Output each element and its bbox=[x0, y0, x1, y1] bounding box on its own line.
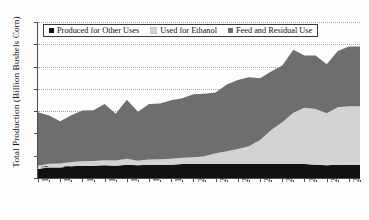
y-tick-mark bbox=[34, 111, 38, 112]
x-tick-label: 1988 bbox=[63, 166, 72, 182]
x-tick-label: 2008 bbox=[285, 166, 294, 182]
x-tick-label: 2014 bbox=[352, 166, 361, 182]
x-tick-mark bbox=[38, 178, 39, 182]
x-tick-mark bbox=[193, 178, 194, 182]
x-tick-mark bbox=[260, 178, 261, 182]
x-tick-label: 2004 bbox=[241, 166, 250, 182]
legend-item: Used for Ethanol bbox=[150, 26, 217, 35]
y-tick-mark bbox=[34, 156, 38, 157]
y-tick-mark bbox=[34, 22, 38, 23]
x-tick-mark bbox=[304, 178, 305, 182]
x-tick-label: 1996 bbox=[152, 166, 161, 182]
x-tick-label: 1986 bbox=[41, 166, 50, 182]
x-tick-label: 2000 bbox=[197, 166, 206, 182]
x-tick-mark bbox=[82, 178, 83, 182]
legend-swatch-icon bbox=[150, 27, 157, 34]
x-tick-mark bbox=[216, 178, 217, 182]
legend-swatch-icon bbox=[49, 28, 54, 33]
y-tick-mark bbox=[34, 44, 38, 45]
x-tick-label: 1994 bbox=[130, 166, 139, 182]
chart-figure: Total Production (Billion Bushels Corn) … bbox=[0, 0, 369, 220]
x-tick-label: 1998 bbox=[174, 166, 183, 182]
y-tick-mark bbox=[34, 67, 38, 68]
figure-caption bbox=[18, 213, 358, 220]
legend-label: Used for Ethanol bbox=[160, 26, 217, 35]
legend-label: Produced for Other Uses bbox=[57, 26, 139, 35]
legend-item: Produced for Other Uses bbox=[49, 26, 139, 35]
x-tick-label: 2002 bbox=[219, 166, 228, 182]
x-tick-mark bbox=[349, 178, 350, 182]
stacked-area-series bbox=[38, 22, 360, 178]
x-tick-mark bbox=[171, 178, 172, 182]
x-tick-label: 2006 bbox=[263, 166, 272, 182]
x-tick-mark bbox=[127, 178, 128, 182]
plot-area: 02468101214 1986198819901992199419961998… bbox=[38, 22, 360, 178]
x-tick-label: 2012 bbox=[330, 166, 339, 182]
x-tick-mark bbox=[327, 178, 328, 182]
x-tick-mark bbox=[105, 178, 106, 182]
x-tick-label: 1990 bbox=[86, 166, 95, 182]
chart-legend: Produced for Other UsesUsed for EthanolF… bbox=[43, 24, 318, 37]
legend-label: Feed and Residual Use bbox=[236, 26, 312, 35]
legend-swatch-icon bbox=[228, 28, 233, 33]
x-tick-label: 2010 bbox=[308, 166, 317, 182]
x-tick-mark bbox=[60, 178, 61, 182]
y-tick-mark bbox=[34, 89, 38, 90]
x-tick-mark bbox=[149, 178, 150, 182]
x-tick-mark bbox=[238, 178, 239, 182]
legend-item: Feed and Residual Use bbox=[228, 26, 312, 35]
y-axis-title: Total Production (Billion Bushels Corn) bbox=[11, 0, 25, 185]
x-tick-label: 1992 bbox=[108, 166, 117, 182]
x-tick-mark bbox=[282, 178, 283, 182]
y-tick-mark bbox=[34, 133, 38, 134]
